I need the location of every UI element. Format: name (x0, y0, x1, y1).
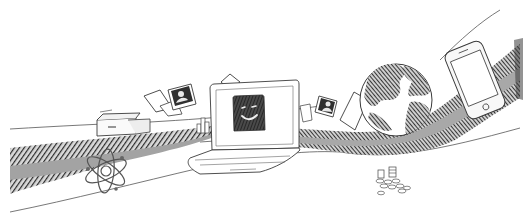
globe-icon (360, 64, 432, 136)
coins-icon (376, 167, 411, 195)
printer-icon (97, 110, 150, 136)
paper-icon (300, 104, 312, 122)
smiley-screen-icon (233, 95, 265, 131)
photo-icon (315, 96, 337, 117)
photo-icon (168, 84, 196, 110)
sketch-illustration (0, 0, 523, 224)
